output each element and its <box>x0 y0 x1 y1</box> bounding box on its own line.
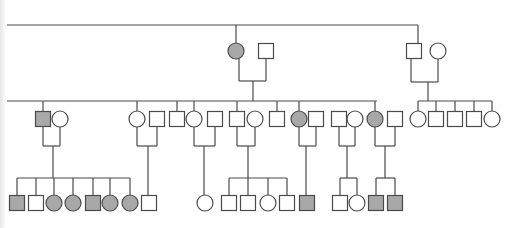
unaffected-male-square-icon <box>222 196 237 211</box>
unaffected-male-square-icon <box>150 112 165 127</box>
unaffected-female-circle-icon <box>186 111 202 127</box>
affected-male-square-icon <box>388 196 403 211</box>
unaffected-male-square-icon <box>142 196 157 211</box>
affected-female-circle-icon <box>102 195 118 211</box>
affected-female-circle-icon <box>122 195 138 211</box>
affected-male-square-icon <box>300 196 315 211</box>
unaffected-male-square-icon <box>259 44 274 59</box>
unaffected-female-circle-icon <box>347 111 363 127</box>
unaffected-female-circle-icon <box>247 111 263 127</box>
affected-female-circle-icon <box>228 43 244 59</box>
unaffected-male-square-icon <box>388 112 403 127</box>
unaffected-male-square-icon <box>407 44 422 59</box>
unaffected-male-square-icon <box>280 196 295 211</box>
pedigree-chart <box>0 0 530 228</box>
unaffected-male-square-icon <box>29 196 44 211</box>
unaffected-female-circle-icon <box>349 195 365 211</box>
affected-male-square-icon <box>369 196 384 211</box>
unaffected-female-circle-icon <box>484 111 500 127</box>
pedigree-diagram <box>0 0 530 228</box>
unaffected-male-square-icon <box>333 196 348 211</box>
unaffected-male-square-icon <box>230 112 245 127</box>
unaffected-male-square-icon <box>170 112 185 127</box>
unaffected-female-circle-icon <box>52 111 68 127</box>
affected-male-square-icon <box>10 196 25 211</box>
affected-female-circle-icon <box>367 111 383 127</box>
unaffected-male-square-icon <box>429 112 444 127</box>
individuals <box>10 43 501 211</box>
affected-female-circle-icon <box>291 111 307 127</box>
affected-female-circle-icon <box>65 195 81 211</box>
unaffected-male-square-icon <box>270 112 285 127</box>
unaffected-male-square-icon <box>332 112 347 127</box>
unaffected-male-square-icon <box>241 196 256 211</box>
unaffected-male-square-icon <box>467 112 482 127</box>
affected-male-square-icon <box>36 112 51 127</box>
affected-male-square-icon <box>86 196 101 211</box>
unaffected-male-square-icon <box>208 112 223 127</box>
unaffected-female-circle-icon <box>197 195 213 211</box>
affected-female-circle-icon <box>46 195 62 211</box>
unaffected-male-square-icon <box>448 112 463 127</box>
unaffected-female-circle-icon <box>129 111 145 127</box>
page-edge-shadow <box>0 0 6 228</box>
unaffected-female-circle-icon <box>430 43 446 59</box>
unaffected-male-square-icon <box>309 112 324 127</box>
unaffected-female-circle-icon <box>410 111 426 127</box>
unaffected-female-circle-icon <box>260 195 276 211</box>
